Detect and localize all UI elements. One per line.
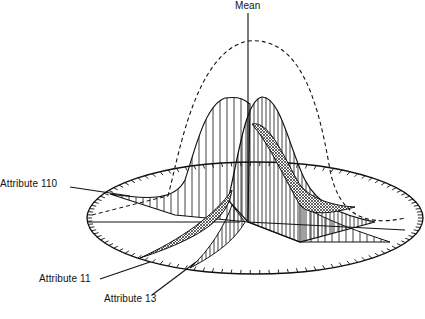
diagram-canvas: Mean Attribute 110 Attribute 11 Attribut…: [0, 0, 425, 319]
label-attribute-110: Attribute 110: [0, 178, 57, 189]
label-attribute-13: Attribute 13: [104, 293, 156, 304]
label-mean: Mean: [235, 0, 260, 11]
distribution-diagram: [0, 0, 425, 319]
label-attribute-11: Attribute 11: [39, 273, 91, 284]
curve-attribute-110: [110, 97, 250, 222]
